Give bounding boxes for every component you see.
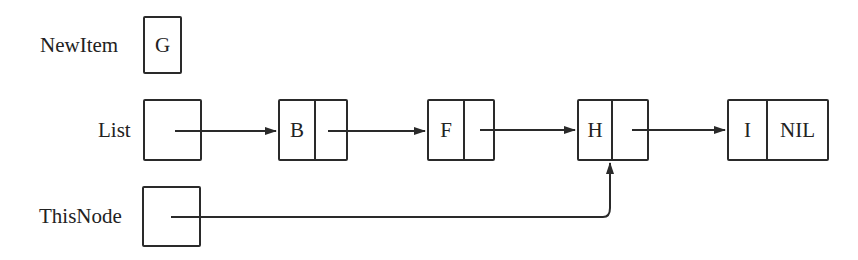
linked-list-diagram: NewItem G List B F H I NIL ThisNode (0, 0, 858, 260)
arrows-layer (0, 0, 858, 260)
arrow-thisnode-to-h (171, 163, 610, 217)
